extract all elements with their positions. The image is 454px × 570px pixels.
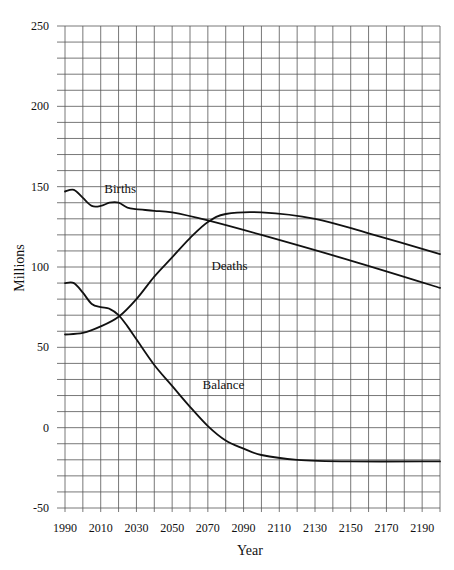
data-series xyxy=(65,190,440,462)
x-tick-label: 2050 xyxy=(160,521,184,535)
x-tick-label: 2090 xyxy=(232,521,256,535)
births-line xyxy=(65,190,440,288)
births-label: Births xyxy=(104,181,136,196)
x-tick-label: 2070 xyxy=(196,521,220,535)
y-tick-label: 250 xyxy=(31,19,49,33)
balance-label: Balance xyxy=(203,377,245,392)
deaths-label: Deaths xyxy=(211,258,247,273)
x-axis-title: Year xyxy=(237,543,263,558)
y-tick-label: 50 xyxy=(37,340,49,354)
x-tick-label: 2150 xyxy=(339,521,363,535)
y-tick-label: 0 xyxy=(43,421,49,435)
x-tick-label: 1990 xyxy=(53,521,77,535)
x-tick-label: 2110 xyxy=(268,521,292,535)
y-tick-label: 100 xyxy=(31,260,49,274)
grid xyxy=(57,26,440,512)
x-tick-label: 2130 xyxy=(303,521,327,535)
deaths-line xyxy=(65,212,440,334)
x-tick-label: 2030 xyxy=(124,521,148,535)
y-axis-title: Millions xyxy=(12,244,27,291)
x-tick-label: 2010 xyxy=(89,521,113,535)
x-tick-label: 2190 xyxy=(410,521,434,535)
balance-line xyxy=(65,282,440,461)
y-tick-label: 200 xyxy=(31,99,49,113)
x-tick-label: 2170 xyxy=(374,521,398,535)
axes: 250200150100500-501990201020302050207020… xyxy=(31,19,434,535)
y-tick-label: 150 xyxy=(31,180,49,194)
y-tick-label: -50 xyxy=(33,501,49,515)
population-chart: 250200150100500-501990201020302050207020… xyxy=(0,0,454,570)
